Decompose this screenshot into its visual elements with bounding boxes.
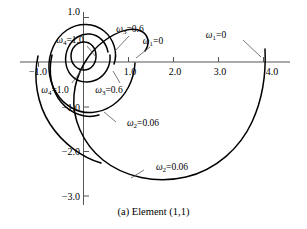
leader-w2-upper [104, 112, 116, 122]
x-tick-label-3: 3.0 [214, 66, 227, 77]
annotation-w3-bottom: ω3=0.6 [95, 85, 123, 97]
x-tick-label-1: 1.0 [124, 66, 137, 77]
y-tick-label--1: −1.0 [62, 102, 80, 113]
x-tick-label-4: 4.0 [266, 66, 279, 77]
annotation-w3-top: ω3=0.6 [116, 24, 144, 36]
annotation-w2-lower: ω2=0.06 [156, 162, 188, 174]
y-tick-label-1: 1.0 [68, 6, 81, 17]
x-tick-label-2: 2.0 [169, 66, 182, 77]
leader-w1-right [243, 40, 261, 57]
x-tick-label--1: −1.0 [29, 66, 47, 77]
figure-caption: (a) Element (1,1) [0, 206, 307, 217]
nyquist-figure: −1.0 1.0 2.0 3.0 4.0 1.0 −1.0 −2.0 −3.0 … [0, 0, 307, 229]
annotation-w1-left: ω1=0 [143, 36, 164, 48]
annotation-w1-right: ω1=0 [206, 30, 227, 42]
curve-outer-loop [74, 29, 265, 179]
leader-w1-left [136, 47, 150, 58]
y-tick-label--3: −3.0 [62, 191, 80, 202]
nyquist-plot-svg: −1.0 1.0 2.0 3.0 4.0 1.0 −1.0 −2.0 −3.0 … [0, 0, 307, 229]
annotation-w2-upper: ω2=0.06 [127, 118, 159, 130]
y-tick-marks [84, 18, 90, 197]
leader-w3-top [115, 36, 129, 51]
leader-w3-bottom [113, 71, 120, 83]
leader-lines [72, 36, 261, 178]
y-tick-label--2: −2.0 [62, 146, 80, 157]
annotation-w4-bottom: ω4=1.0 [41, 85, 69, 97]
